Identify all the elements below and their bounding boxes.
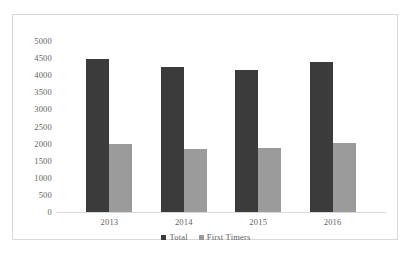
- bar-first-timers-2015[interactable]: [258, 148, 281, 212]
- legend-item-first-timers[interactable]: First Timers: [199, 233, 251, 242]
- bar-total-2015[interactable]: [235, 70, 258, 212]
- x-axis-labels: 2013201420152016: [58, 215, 384, 231]
- y-axis-tick-label: 2000: [34, 139, 52, 148]
- y-axis-tick-label: 4000: [34, 71, 52, 80]
- bar-group: [161, 41, 207, 212]
- legend-swatch-icon: [161, 235, 166, 240]
- x-axis-line: [56, 212, 386, 213]
- y-axis-tick-label: 5000: [34, 37, 52, 46]
- bar-first-timers-2016[interactable]: [333, 143, 356, 212]
- legend-label: First Timers: [207, 233, 251, 242]
- y-axis-tick-label: 1500: [34, 156, 52, 165]
- x-axis-tick-label: 2013: [79, 215, 139, 229]
- bar-total-2014[interactable]: [161, 67, 184, 212]
- bar-group: [235, 41, 281, 212]
- bar-group: [86, 41, 132, 212]
- y-axis-tick-label: 1000: [34, 174, 52, 183]
- x-axis-tick-label: 2015: [228, 215, 288, 229]
- x-axis-tick-label: 2016: [303, 215, 363, 229]
- bar-group: [310, 41, 356, 212]
- x-axis-tick-label: 2014: [154, 215, 214, 229]
- bar-first-timers-2014[interactable]: [184, 149, 207, 212]
- y-axis-tick-label: 4500: [34, 54, 52, 63]
- chart-container: 5000450040003500300025002000150010005000…: [12, 14, 398, 240]
- bar-total-2016[interactable]: [310, 62, 333, 212]
- bars-layer: [58, 41, 384, 212]
- legend-item-total[interactable]: Total: [161, 233, 187, 242]
- legend-label: Total: [169, 233, 187, 242]
- y-axis-tick-label: 2500: [34, 122, 52, 131]
- legend-swatch-icon: [199, 235, 204, 240]
- chart-legend: TotalFirst Timers: [13, 233, 399, 242]
- y-axis-tick-label: 3000: [34, 105, 52, 114]
- y-axis-tick-label: 0: [48, 208, 52, 217]
- y-axis: 5000450040003500300025002000150010005000: [13, 27, 56, 212]
- y-axis-tick-label: 500: [39, 191, 52, 200]
- bar-first-timers-2013[interactable]: [109, 144, 132, 212]
- bar-total-2013[interactable]: [86, 59, 109, 212]
- y-axis-tick-label: 3500: [34, 88, 52, 97]
